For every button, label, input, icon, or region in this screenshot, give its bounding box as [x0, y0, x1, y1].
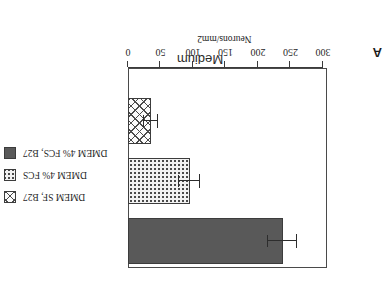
error-bar-stem	[144, 120, 158, 121]
legend-item-1: DMEM SF, B27	[4, 186, 122, 208]
error-bar-stem	[179, 180, 200, 181]
bar-3	[128, 98, 151, 144]
axis-tick-label: 250	[283, 47, 298, 58]
axis-tick	[127, 61, 128, 67]
error-bar-cap	[296, 234, 297, 248]
value-axis-line	[128, 67, 323, 68]
axis-tick-label: 300	[316, 47, 331, 58]
error-bar-cap-inner	[178, 175, 179, 187]
axis-tick-label: 200	[251, 47, 266, 58]
error-bar-cap-inner	[267, 235, 268, 247]
axis-tick	[160, 61, 161, 67]
axis-tick	[322, 61, 323, 67]
panel-letter: A	[372, 45, 382, 60]
legend-item-3: DMEM 4% FCS, B27	[4, 142, 122, 164]
value-axis-title: Neurons/mm2	[197, 34, 251, 44]
error-bar-cap-inner	[143, 115, 144, 127]
axis-tick-label: 100	[186, 47, 201, 58]
legend-label: DMEM SF, B27	[23, 192, 85, 202]
rotated-figure-content: A Medium 050100150200250300 Neurons/mm2 …	[0, 0, 388, 282]
legend-swatch-icon	[4, 191, 16, 203]
axis-tick	[290, 61, 291, 67]
axis-tick-label: 0	[126, 47, 131, 58]
legend-item-2: DMEM 4% FCS	[4, 164, 122, 186]
chart-legend: DMEM SF, B27DMEM 4% FCSDMEM 4% FCS, B27	[4, 142, 122, 208]
axis-tick	[257, 61, 258, 67]
axis-tick-label: 50	[156, 47, 166, 58]
bar-2	[128, 158, 190, 204]
legend-label: DMEM 4% FCS, B27	[23, 148, 107, 158]
figure-canvas: A Medium 050100150200250300 Neurons/mm2 …	[0, 0, 388, 282]
error-bar-stem	[268, 240, 297, 241]
legend-label: DMEM 4% FCS	[23, 170, 87, 180]
error-bar-cap	[199, 174, 200, 188]
axis-tick	[225, 61, 226, 67]
axis-tick	[192, 61, 193, 67]
error-bar-cap	[157, 114, 158, 128]
legend-swatch-icon	[4, 147, 16, 159]
legend-swatch-icon	[4, 169, 16, 181]
axis-tick-label: 150	[218, 47, 233, 58]
bar-1	[128, 218, 283, 264]
